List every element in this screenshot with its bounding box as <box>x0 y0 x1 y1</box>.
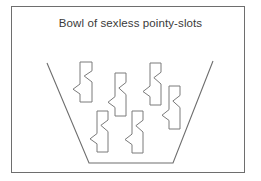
pointy-slot-pieces <box>73 62 180 153</box>
pointy-slot-piece <box>162 86 180 129</box>
pointy-slot-piece <box>108 73 126 116</box>
bowl-diagram <box>0 0 261 181</box>
pointy-slot-piece <box>125 111 143 153</box>
pointy-slot-piece <box>73 62 92 102</box>
pointy-slot-piece <box>143 63 161 105</box>
bowl-outline <box>47 61 213 163</box>
pointy-slot-piece <box>90 111 108 152</box>
